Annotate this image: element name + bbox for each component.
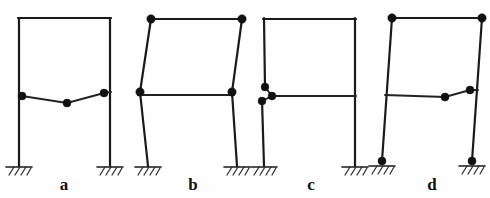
frame-b-hinge-top-left (147, 15, 155, 23)
frame-a-hinge-mid (63, 99, 71, 107)
frame-d-hinge-base-right (468, 157, 476, 165)
frame-c-hinge-beam-end (268, 92, 276, 100)
frame-b-support-left-fixed (135, 167, 161, 175)
frame-d-hinge-mid-beam (441, 93, 449, 101)
frame-d-hinge-base-left (378, 157, 386, 165)
frame-a-support-right-fixed (97, 167, 123, 175)
frame-a-hinge-right (100, 89, 108, 97)
frame-d-mid-beam (385, 90, 478, 97)
frame-c-hinge-column-below (258, 97, 266, 105)
frames-diagram: a (0, 0, 490, 198)
frame-d-label: d (427, 175, 437, 194)
collapse-mechanism-figure: a (0, 0, 490, 198)
frame-b-hinge-mid-right (228, 88, 236, 96)
frame-a-hinge-left (18, 92, 26, 100)
frame-d-support-right-fixed (459, 166, 485, 174)
frame-c-hinge-column-above (261, 83, 269, 91)
frame-c-support-right-fixed (342, 167, 368, 175)
frame-a-label: a (60, 175, 69, 194)
frame-a: a (6, 18, 123, 194)
frame-b-hinge-mid-left (136, 88, 144, 96)
frame-d: d (369, 14, 486, 194)
frame-b-label: b (188, 175, 197, 194)
frame-b-hinge-top-right (238, 15, 246, 23)
frame-d-left-column (382, 18, 392, 161)
frame-d-hinge-top-left (388, 14, 396, 22)
frame-b: b (135, 15, 250, 194)
frame-a-support-left-fixed (6, 167, 32, 175)
frame-c-left-column-lower (262, 100, 264, 166)
frame-d-hinge-mid-right (466, 86, 474, 94)
frame-c-label: c (307, 175, 315, 194)
frame-c-support-left-fixed (251, 167, 277, 175)
frame-d-hinge-top-right (478, 14, 486, 22)
frame-d-support-left-fixed (369, 166, 395, 174)
frame-b-support-right-fixed (224, 167, 250, 175)
frame-c: c (251, 18, 368, 194)
frame-c-left-column-upper (264, 18, 265, 88)
